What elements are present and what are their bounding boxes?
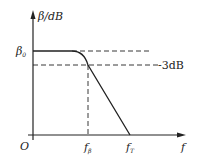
y-axis-arrow-icon	[31, 10, 36, 19]
x-axis-label: f	[180, 141, 187, 154]
response-curve	[33, 51, 130, 135]
fbeta-label: fβ	[83, 141, 92, 155]
origin-label: O	[20, 140, 29, 153]
beta0-label: β0	[15, 45, 26, 58]
bode-plot: β/dB β0 -3dB O fβ fT f	[0, 0, 198, 159]
minus3db-label: -3dB	[158, 59, 184, 72]
fT-label: fT	[125, 141, 135, 154]
y-axis-label: β/dB	[37, 10, 63, 23]
x-axis-arrow-icon	[177, 133, 186, 138]
